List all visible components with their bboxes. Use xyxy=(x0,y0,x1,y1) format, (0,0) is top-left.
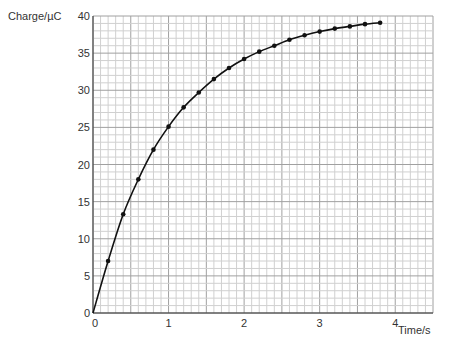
data-point xyxy=(212,77,217,82)
y-tick-label: 35 xyxy=(78,47,90,59)
y-tick-label: 10 xyxy=(78,233,90,245)
y-tick-labels: 0510152025303540 xyxy=(78,10,90,319)
data-point xyxy=(302,33,307,38)
data-point xyxy=(151,147,156,152)
y-tick-label: 15 xyxy=(78,196,90,208)
data-point xyxy=(106,259,111,264)
data-point xyxy=(272,43,277,48)
y-axis-label: Charge/µC xyxy=(8,10,61,22)
data-point xyxy=(121,212,126,217)
data-point xyxy=(317,29,322,34)
x-tick-label: 0 xyxy=(92,317,98,329)
x-tick-labels: 01234 xyxy=(92,317,398,329)
y-tick-label: 20 xyxy=(78,159,90,171)
x-tick-label: 2 xyxy=(241,317,247,329)
y-tick-label: 40 xyxy=(78,10,90,22)
data-point xyxy=(363,22,368,27)
data-point xyxy=(166,124,171,129)
x-tick-label: 3 xyxy=(317,317,323,329)
data-point xyxy=(227,66,232,71)
data-point xyxy=(136,177,141,182)
data-point xyxy=(242,57,247,62)
data-point xyxy=(332,26,337,31)
data-point xyxy=(348,24,353,29)
y-tick-label: 0 xyxy=(84,307,90,319)
data-point xyxy=(378,20,383,25)
data-point xyxy=(181,105,186,110)
grid xyxy=(93,16,433,313)
data-point xyxy=(196,90,201,95)
data-point xyxy=(287,37,292,42)
y-tick-label: 25 xyxy=(78,121,90,133)
y-tick-label: 5 xyxy=(84,270,90,282)
data-point xyxy=(257,49,262,54)
x-axis-label: Time/s xyxy=(398,324,431,336)
y-tick-label: 30 xyxy=(78,84,90,96)
x-tick-label: 1 xyxy=(165,317,171,329)
charge-time-chart: 0510152025303540 01234 Charge/µC Time/s xyxy=(0,0,454,351)
